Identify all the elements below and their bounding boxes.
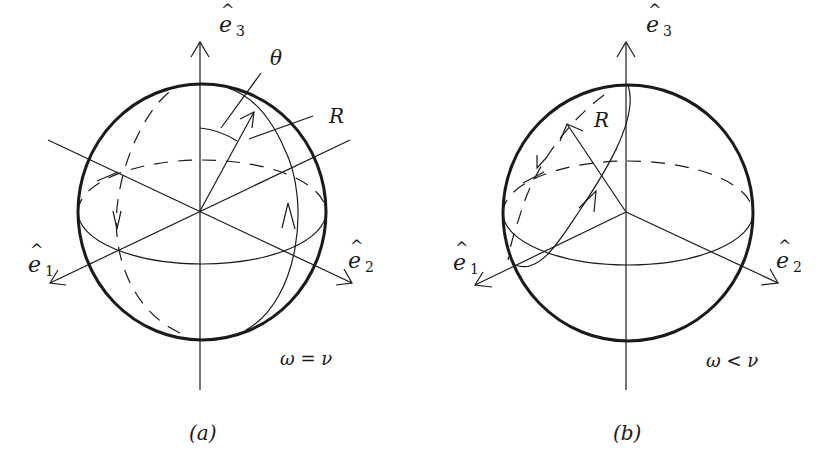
trajectory-down-arrow <box>537 155 547 168</box>
e2-axis <box>626 212 778 283</box>
caption-b: (b) <box>613 423 641 443</box>
e1-axis <box>475 212 626 285</box>
condition-b: ω < ν <box>706 352 758 370</box>
theta-leader <box>221 73 261 128</box>
diagram-canvas: .thin { stroke: #1a1a1a; stroke-width: 1… <box>0 0 818 469</box>
radius-vector <box>567 124 626 212</box>
e1-label-b: ^e1 <box>453 252 479 276</box>
radius-label-a: R <box>329 106 344 126</box>
trajectory-front <box>515 85 630 267</box>
trajectory-back <box>116 90 180 333</box>
trajectory-tick <box>523 172 544 183</box>
panel-b-sphere-diagram <box>475 42 778 390</box>
e2-label-b: ^e2 <box>776 250 802 274</box>
panel-a-sphere-diagram <box>48 42 352 390</box>
e3-label-b: ^e3 <box>646 14 672 38</box>
trajectory-arrow <box>579 191 596 212</box>
trajectory-back <box>508 95 604 260</box>
trajectory-tick <box>97 172 118 181</box>
e3-label-a: ^e3 <box>219 14 245 38</box>
radius-label-b: R <box>594 110 609 130</box>
e1-label-a: ^e1 <box>28 254 54 278</box>
radius-arrowhead <box>560 124 583 141</box>
trajectory-down-arrow <box>113 211 121 229</box>
equator-front <box>503 213 753 265</box>
radius-leader <box>249 116 313 139</box>
trajectory-front <box>228 88 298 330</box>
radius-vector <box>200 112 254 211</box>
equator-back <box>503 161 753 213</box>
theta-label: θ <box>270 48 282 68</box>
condition-a: ω = ν <box>280 350 332 368</box>
trajectory-up-arrow <box>282 203 295 229</box>
caption-a: (a) <box>189 423 217 443</box>
theta-arc <box>200 128 237 141</box>
e2-label-a: ^e2 <box>348 250 374 274</box>
